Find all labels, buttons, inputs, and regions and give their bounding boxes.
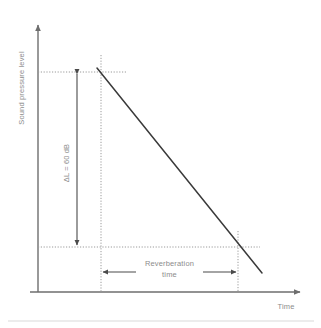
y-axis-label: Sound pressure level (17, 51, 26, 125)
guide-lines-group (38, 55, 260, 292)
x-axis-label: Time (278, 302, 295, 311)
reverberation-time-annotation: Reverberation time (103, 259, 236, 279)
level-drop-label: ΔL = 60 dB (62, 144, 71, 183)
reverberation-time-diagram: ΔL = 60 dB Reverberation time Sound pres… (0, 0, 321, 328)
plot-area: ΔL = 60 dB Reverberation time Sound pres… (8, 25, 314, 321)
level-drop-annotation: ΔL = 60 dB (62, 74, 77, 245)
reverberation-time-label-line2: time (162, 270, 177, 279)
reverberation-time-label-line1: Reverberation (145, 259, 194, 268)
sound-decay-line (97, 68, 262, 273)
